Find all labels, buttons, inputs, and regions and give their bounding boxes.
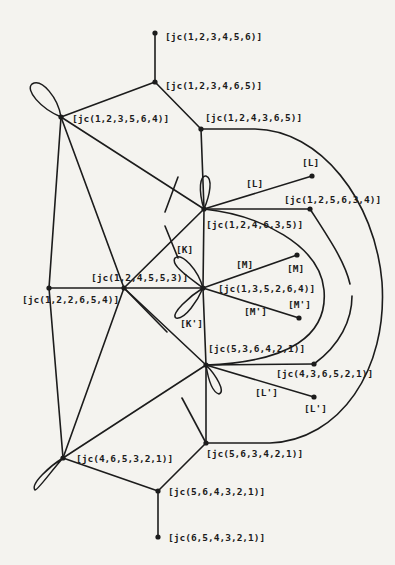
stub-edge [182,398,206,443]
edge-n16-n13 [63,365,206,458]
node-label: [jc(4,6,5,3,2,1)] [76,453,173,464]
edge-n3-n8 [61,117,124,288]
edge-n8-n16 [63,288,124,458]
edge-n17-n18 [158,443,206,491]
node-label: [L'] [304,403,327,414]
stub-edge [165,177,178,212]
edge-label: [L] [246,178,263,189]
graph-node [155,488,160,493]
graph-node [296,315,301,320]
node-label: [jc(6,5,4,3,2,1)] [168,532,265,543]
self-loop-n5 [200,176,210,209]
edge-n3-n5 [61,117,204,209]
graph-node [294,252,299,257]
edge-label: [M] [236,259,253,270]
edge-n10-n5 [203,209,204,288]
edge-n13-n14 [206,364,314,365]
edge-n2-n3 [61,82,155,117]
graph-node [152,30,157,35]
lower-split-arc-edge [314,296,352,364]
node-label: [jc(5,3,6,4,2,1)] [208,343,305,354]
graph-node [307,206,312,211]
graph-node [58,114,63,119]
node-label: [jc(1,2,3,5,6,4)] [72,113,169,124]
graph-node [155,534,160,539]
graph-node [311,361,316,366]
edge-label: [K] [176,244,193,255]
graph-node [309,173,314,178]
node-label: [jc(1,2,3,4,5,6)] [165,31,262,42]
node-label: [jc(1,2,3,4,6,5)] [165,80,262,91]
graph-node [200,285,205,290]
node-label: [jc(4,3,6,5,2,1)] [276,368,373,379]
edge-n9-n16 [49,288,63,458]
edge-label: [M'] [244,306,267,317]
state-graph: [jc(1,2,3,4,5,6)][jc(1,2,3,4,6,5)][jc(1,… [0,0,395,565]
edge-n10-n13 [203,288,206,365]
upper-split-arc-edge [310,209,350,284]
graph-node [311,394,316,399]
graph-node [46,285,51,290]
graph-node [201,206,206,211]
graph-node [152,79,157,84]
node-label: [jc(1,2,5,6,3,4)] [284,194,381,205]
diagram-canvas: [jc(1,2,3,4,5,6)][jc(1,2,3,4,6,5)][jc(1,… [0,0,395,565]
graph-node [203,362,208,367]
node-label: [jc(1,2,2,6,5,4)] [22,294,119,305]
node-label: [jc(5,6,3,4,2,1)] [206,448,303,459]
self-loop-n16 [34,458,63,490]
graph-node [121,285,126,290]
stub-edge [124,288,167,332]
graph-node [60,455,65,460]
node-label: [jc(1,2,4,5,5,3)] [91,272,188,283]
edge-label: [K'] [180,318,203,329]
node-label: [jc(1,2,4,6,3,5)] [206,219,303,230]
node-label: [M'] [288,299,311,310]
edge-n3-n9 [49,117,61,288]
self-loop-n3 [30,83,61,117]
self-loop-K-prime [175,288,203,318]
graph-node [198,126,203,131]
node-label: [M] [287,263,304,274]
node-label: [jc(1,2,4,3,6,5)] [205,112,302,123]
node-label: [jc(5,6,4,3,2,1)] [168,486,265,497]
graph-node [203,440,208,445]
node-label: [L] [302,157,319,168]
node-label: [jc(1,3,5,2,6,4)] [218,283,315,294]
edge-label: [L'] [255,387,278,398]
